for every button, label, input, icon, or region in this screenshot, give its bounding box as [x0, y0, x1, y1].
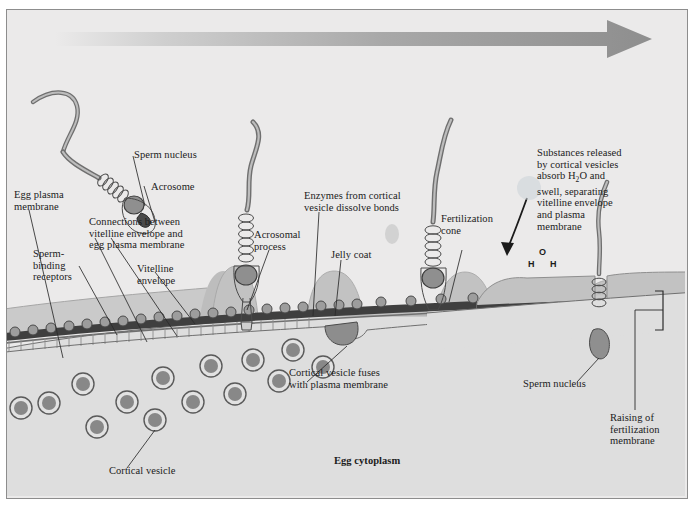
label-connections: Connections between vitelline envelope a…	[89, 216, 184, 251]
enzyme-blob	[385, 224, 399, 244]
label-vitelline-envelope: Vitelline envelope	[137, 263, 175, 286]
figure-stage: Sperm nucleus Acrosome Egg plasma membra…	[0, 0, 692, 505]
label-sperm-binding-receptors: Sperm- binding receptors	[33, 248, 72, 283]
label-egg-plasma-membrane: Egg plasma membrane	[14, 189, 64, 212]
water-hydrogen-right-atom: H	[550, 259, 557, 269]
water-oxygen-atom: O	[539, 247, 546, 257]
label-acrosomal-process: Acrosomal process	[254, 229, 301, 252]
page-top-text-remnant	[0, 0, 692, 9]
label-enzymes: Enzymes from cortical vesicle dissolve b…	[304, 190, 401, 213]
label-acrosome: Acrosome	[151, 181, 195, 193]
label-substances-released: Substances released by cortical vesicles…	[537, 147, 622, 232]
label-egg-cytoplasm: Egg cytoplasm	[334, 455, 400, 467]
label-sperm-nucleus-left: Sperm nucleus	[134, 149, 197, 161]
water-hydrogen-left-atom: H	[528, 259, 535, 269]
label-sperm-nucleus-right: Sperm nucleus	[523, 378, 586, 390]
label-jelly-coat: Jelly coat	[331, 249, 371, 261]
sperm-nucleus-inside	[590, 329, 610, 359]
label-fertilization-cone: Fertilization cone	[441, 213, 493, 236]
label-raising-membrane: Raising of fertilization membrane	[610, 412, 660, 447]
label-cortical-vesicle-fuses: Cortical vesicle fuses with plasma membr…	[289, 367, 388, 390]
figure-frame: Sperm nucleus Acrosome Egg plasma membra…	[6, 9, 688, 499]
label-cortical-vesicle: Cortical vesicle	[109, 465, 175, 477]
